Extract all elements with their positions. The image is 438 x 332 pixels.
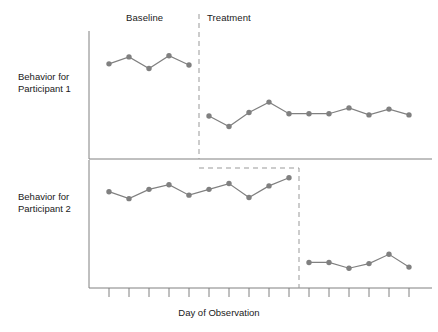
data-point-marker	[346, 105, 351, 110]
data-point-marker	[386, 106, 391, 111]
y-axis-label-participant-2-line2: Participant 2	[18, 203, 71, 215]
panel2-phase-change-line	[199, 168, 299, 288]
data-point-marker	[126, 54, 131, 59]
panel2-baseline-series	[106, 175, 291, 201]
data-point-marker	[326, 111, 331, 116]
data-point-marker	[266, 183, 271, 188]
multiple-baseline-figure: Baseline Treatment Behavior for Particip…	[0, 0, 438, 332]
y-axis-label-participant-2: Behavior for Participant 2	[18, 191, 71, 215]
data-point-marker	[306, 111, 311, 116]
data-point-marker	[206, 113, 211, 118]
data-point-marker	[226, 124, 231, 129]
y-axis-label-participant-1-line1: Behavior for	[18, 71, 71, 83]
data-point-marker	[246, 110, 251, 115]
x-axis-ticks	[109, 288, 409, 297]
data-point-marker	[186, 62, 191, 67]
data-point-marker	[366, 112, 371, 117]
data-point-marker	[406, 264, 411, 269]
data-point-marker	[366, 261, 371, 266]
data-point-marker	[146, 66, 151, 71]
data-point-marker	[326, 260, 331, 265]
y-axis-label-participant-1-line2: Participant 1	[18, 83, 71, 95]
data-point-marker	[246, 195, 251, 200]
data-point-marker	[226, 181, 231, 186]
y-axis-label-participant-2-line1: Behavior for	[18, 191, 71, 203]
phase-label-baseline: Baseline	[126, 12, 163, 23]
data-point-marker	[286, 175, 291, 180]
data-point-marker	[306, 260, 311, 265]
data-point-marker	[266, 99, 271, 104]
panel2-treatment-series	[306, 252, 411, 271]
data-point-marker	[166, 53, 171, 58]
data-line	[309, 254, 409, 268]
data-point-marker	[126, 196, 131, 201]
y-axis-label-participant-1: Behavior for Participant 1	[18, 71, 71, 95]
data-point-marker	[106, 61, 111, 66]
data-point-marker	[286, 111, 291, 116]
data-point-marker	[386, 252, 391, 257]
data-point-marker	[346, 266, 351, 271]
data-point-marker	[106, 189, 111, 194]
data-point-marker	[206, 187, 211, 192]
phase-label-treatment: Treatment	[207, 12, 251, 23]
data-point-marker	[186, 192, 191, 197]
data-point-marker	[166, 182, 171, 187]
x-axis-title: Day of Observation	[0, 307, 438, 318]
data-point-marker	[146, 187, 151, 192]
data-line	[109, 178, 289, 199]
panel1-treatment-series	[206, 99, 411, 129]
panel1-baseline-series	[106, 53, 191, 71]
chart-plot-area	[0, 0, 438, 332]
data-point-marker	[406, 112, 411, 117]
